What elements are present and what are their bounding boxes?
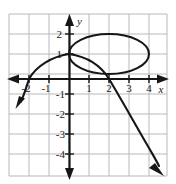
x-tick-label: -1 bbox=[41, 82, 50, 94]
y-tick-label: -3 bbox=[56, 128, 66, 140]
x-tick-label: 4 bbox=[146, 82, 152, 94]
grid-lines bbox=[9, 14, 167, 176]
y-axis-label: y bbox=[76, 15, 82, 27]
y-tick-label: -1 bbox=[56, 88, 65, 100]
plotted-curves bbox=[16, 34, 165, 176]
y-tick-label: -4 bbox=[56, 148, 66, 160]
y-axis-bottom-arrowhead bbox=[65, 168, 74, 180]
x-tick-label: 2 bbox=[106, 82, 112, 94]
axes bbox=[7, 14, 169, 180]
curve-right-arrowhead bbox=[149, 163, 164, 176]
x-tick-label: -2 bbox=[21, 82, 30, 94]
y-tick-label: 1 bbox=[57, 48, 63, 60]
x-tick-label: 3 bbox=[126, 82, 132, 94]
graph-canvas: -2 -1 1 2 3 4 2 1 -1 -2 -3 -4 x y bbox=[0, 0, 176, 184]
x-tick-label: 1 bbox=[86, 82, 92, 94]
y-tick-label: 2 bbox=[57, 28, 63, 40]
y-axis-top-arrowhead bbox=[65, 14, 74, 26]
coordinate-graph-figure: -2 -1 1 2 3 4 2 1 -1 -2 -3 -4 x y bbox=[0, 0, 176, 184]
x-axis-label: x bbox=[158, 83, 164, 95]
y-tick-label: -2 bbox=[56, 108, 65, 120]
curve-left-arrowhead bbox=[16, 96, 26, 109]
